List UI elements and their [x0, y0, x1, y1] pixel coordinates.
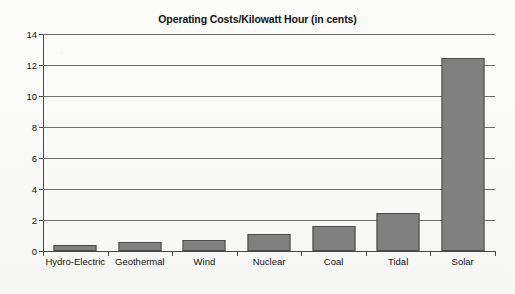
bar-tidal[interactable] [377, 213, 420, 251]
x-tick-mark [430, 251, 431, 256]
x-tick-mark [237, 251, 238, 256]
bar-slot [237, 34, 302, 251]
y-tick-label-10: 10 [11, 91, 37, 102]
plot-area [43, 34, 495, 251]
y-tick-mark-8 [39, 127, 43, 128]
y-tick-mark-6 [39, 158, 43, 159]
y-tick-mark-0 [39, 251, 43, 252]
bar-slot [108, 34, 173, 251]
bar-slot [43, 34, 108, 251]
y-tick-label-14: 14 [11, 29, 37, 40]
y-tick-label-8: 8 [11, 122, 37, 133]
x-tick-mark [172, 251, 173, 256]
bar-slot [172, 34, 237, 251]
y-tick-label-12: 12 [11, 60, 37, 71]
bar-solar[interactable] [441, 58, 484, 251]
bar-slot [366, 34, 431, 251]
y-tick-mark-2 [39, 220, 43, 221]
gridline-0 [43, 251, 495, 252]
x-tick-label-nuclear: Nuclear [253, 256, 286, 267]
x-tick-mark [43, 251, 44, 256]
y-tick-mark-12 [39, 65, 43, 66]
y-tick-label-4: 4 [11, 184, 37, 195]
bar-chart-figure: Operating Costs/Kilowatt Hour (in cents)… [0, 0, 515, 294]
x-tick-label-geothermal: Geothermal [115, 256, 165, 267]
bars-layer [43, 34, 495, 251]
y-tick-label-0: 0 [11, 246, 37, 257]
bar-geothermal[interactable] [118, 242, 161, 251]
y-tick-label-2: 2 [11, 215, 37, 226]
bar-wind[interactable] [183, 240, 226, 251]
x-tick-mark [366, 251, 367, 256]
bar-hydro-electric[interactable] [54, 245, 97, 251]
x-tick-label-coal: Coal [324, 256, 344, 267]
chart-title: Operating Costs/Kilowatt Hour (in cents) [0, 13, 515, 25]
x-tick-label-solar: Solar [452, 256, 474, 267]
bar-slot [430, 34, 495, 251]
bar-coal[interactable] [312, 226, 355, 251]
x-tick-label-tidal: Tidal [388, 256, 408, 267]
x-tick-mark [301, 251, 302, 256]
y-tick-label-6: 6 [11, 153, 37, 164]
x-tick-mark [495, 251, 496, 256]
x-tick-mark [108, 251, 109, 256]
y-tick-mark-14 [39, 34, 43, 35]
y-tick-mark-10 [39, 96, 43, 97]
y-axis-tick-labels: 02468101214 [6, 34, 37, 251]
x-tick-label-wind: Wind [194, 256, 216, 267]
y-tick-mark-4 [39, 189, 43, 190]
x-tick-label-hydro-electric: Hydro-Electric [45, 256, 105, 267]
bar-slot [301, 34, 366, 251]
bar-nuclear[interactable] [247, 234, 290, 251]
